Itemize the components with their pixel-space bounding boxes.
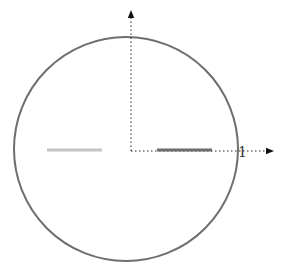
x-axis-label: 1 <box>238 144 247 160</box>
unit-circle-diagram: 1 <box>0 0 282 275</box>
